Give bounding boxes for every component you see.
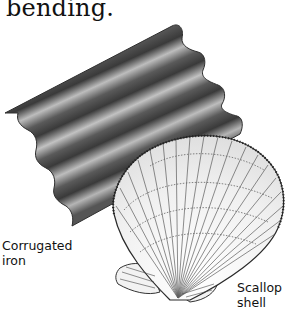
scallop-shell-label: Scallop shell — [237, 280, 282, 310]
scallop-shell-label-line2: shell — [237, 295, 282, 310]
corrugated-iron-label: Corrugated iron — [2, 238, 72, 268]
corrugated-iron-label-line2: iron — [2, 253, 72, 268]
corrugated-iron-label-line1: Corrugated — [2, 238, 72, 253]
scallop-shell — [113, 136, 284, 302]
illustration — [0, 0, 298, 316]
scallop-shell-label-line1: Scallop — [237, 280, 282, 295]
